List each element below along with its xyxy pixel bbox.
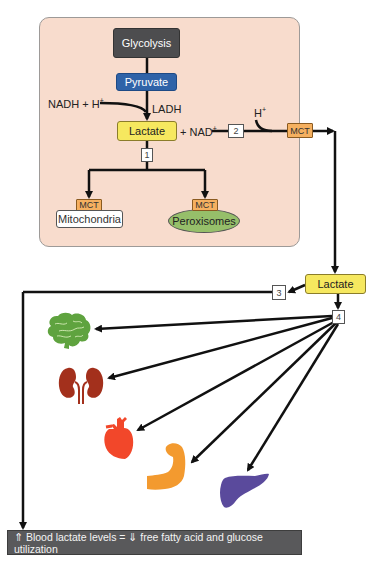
nad-label: + NAD+ — [180, 125, 217, 138]
mitochondria-node: Mitochondria — [56, 210, 123, 228]
nadh-label: NADH + H+ — [48, 97, 104, 110]
heart-icon — [103, 415, 135, 460]
step-4-marker: 4 — [332, 310, 345, 324]
peroxisomes-node: Peroxisomes — [168, 209, 240, 233]
glycolysis-node: Glycolysis — [113, 28, 180, 58]
ladh-enzyme-label: LADH — [152, 103, 181, 115]
mct-export-transporter: MCT — [287, 123, 313, 138]
brain-icon — [45, 312, 93, 350]
muscle-arm-icon — [147, 442, 187, 492]
conclusion-banner: ⇑ Blood lactate levels = ⇓ free fatty ac… — [7, 530, 302, 555]
step-2-marker: 2 — [228, 124, 244, 138]
mct-peroxisomes-transporter: MCT — [192, 199, 218, 211]
step-3-marker: 3 — [272, 285, 286, 300]
kidney-icon — [58, 366, 104, 404]
pyruvate-node: Pyruvate — [116, 73, 177, 91]
liver-icon — [219, 472, 271, 510]
proton-label: H+ — [254, 106, 266, 119]
lactate-node-blood: Lactate — [305, 274, 366, 294]
step-1-marker: 1 — [141, 148, 153, 162]
lactate-node-cell: Lactate — [117, 121, 177, 141]
